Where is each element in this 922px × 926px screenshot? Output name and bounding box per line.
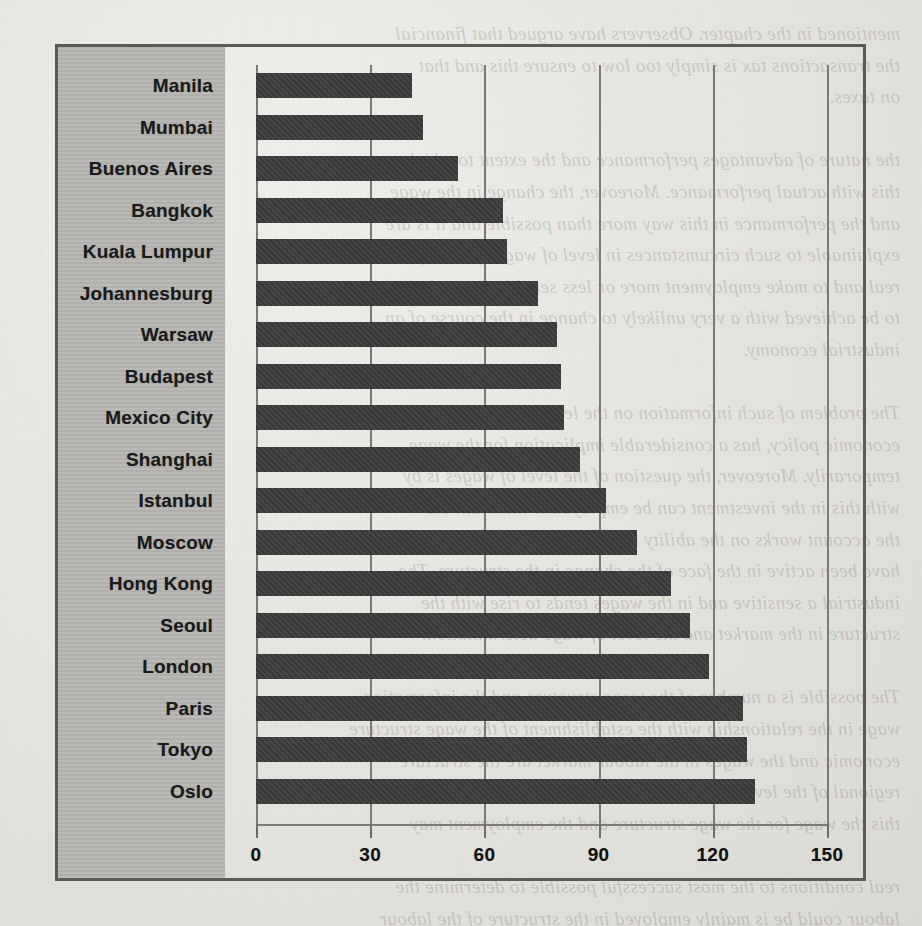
category-label-hong-kong: Hong Kong bbox=[109, 563, 213, 605]
tick-mark-60 bbox=[484, 824, 486, 838]
category-label-manila: Manila bbox=[153, 65, 213, 107]
bar-row bbox=[225, 729, 863, 771]
bar-row bbox=[225, 480, 863, 522]
bar-row bbox=[225, 439, 863, 481]
bar-tokyo bbox=[256, 737, 747, 762]
category-label-moscow: Moscow bbox=[137, 522, 213, 564]
bar-row bbox=[225, 605, 863, 647]
x-tick-label-30: 30 bbox=[359, 844, 381, 866]
bar-row bbox=[225, 231, 863, 273]
bar-row bbox=[225, 65, 863, 107]
bar-row bbox=[225, 688, 863, 730]
category-label-buenos-aires: Buenos Aires bbox=[89, 148, 213, 190]
bar-mexico-city bbox=[256, 405, 564, 430]
category-label-shanghai: Shanghai bbox=[126, 439, 213, 481]
tick-mark-0 bbox=[256, 824, 258, 838]
bar-shanghai bbox=[256, 447, 580, 472]
category-label-bangkok: Bangkok bbox=[131, 190, 213, 232]
x-tick-label-120: 120 bbox=[696, 844, 729, 866]
tick-mark-120 bbox=[713, 824, 715, 838]
category-label-mumbai: Mumbai bbox=[140, 107, 213, 149]
bar-oslo bbox=[256, 779, 755, 804]
category-label-tokyo: Tokyo bbox=[157, 729, 213, 771]
bar-london bbox=[256, 654, 709, 679]
bar-moscow bbox=[256, 530, 637, 555]
bar-hong-kong bbox=[256, 571, 671, 596]
bar-johannesburg bbox=[256, 281, 538, 306]
tick-mark-30 bbox=[370, 824, 372, 838]
category-label-oslo: Oslo bbox=[170, 771, 213, 813]
bar-buenos-aires bbox=[256, 156, 458, 181]
bar-paris bbox=[256, 696, 743, 721]
x-tick-label-60: 60 bbox=[474, 844, 496, 866]
bar-row bbox=[225, 646, 863, 688]
category-label-seoul: Seoul bbox=[160, 605, 213, 647]
category-label-paris: Paris bbox=[166, 688, 213, 730]
chart-frame: 0306090120150 ManilaMumbaiBuenos AiresBa… bbox=[55, 44, 866, 881]
bar-row bbox=[225, 190, 863, 232]
bar-row bbox=[225, 273, 863, 315]
bar-seoul bbox=[256, 613, 690, 638]
x-axis-line bbox=[256, 824, 827, 826]
bar-row bbox=[225, 314, 863, 356]
bar-istanbul bbox=[256, 488, 606, 513]
bar-budapest bbox=[256, 364, 561, 389]
bar-kuala-lumpur bbox=[256, 239, 507, 264]
x-tick-label-0: 0 bbox=[251, 844, 262, 866]
plot-area: 0306090120150 bbox=[225, 47, 863, 878]
category-label-budapest: Budapest bbox=[125, 356, 213, 398]
bar-bangkok bbox=[256, 198, 503, 223]
category-label-kuala-lumpur: Kuala Lumpur bbox=[83, 231, 213, 273]
bar-row bbox=[225, 522, 863, 564]
bar-warsaw bbox=[256, 322, 557, 347]
tick-mark-150 bbox=[827, 824, 829, 838]
category-label-johannesburg: Johannesburg bbox=[80, 273, 213, 315]
bar-row bbox=[225, 356, 863, 398]
bar-manila bbox=[256, 73, 412, 98]
bar-row bbox=[225, 771, 863, 813]
x-tick-label-150: 150 bbox=[811, 844, 844, 866]
bar-row bbox=[225, 397, 863, 439]
category-label-london: London bbox=[142, 646, 213, 688]
category-label-mexico-city: Mexico City bbox=[105, 397, 213, 439]
x-tick-label-90: 90 bbox=[588, 844, 610, 866]
bar-row bbox=[225, 148, 863, 190]
category-label-istanbul: Istanbul bbox=[139, 480, 213, 522]
bar-row bbox=[225, 107, 863, 149]
tick-mark-90 bbox=[599, 824, 601, 838]
category-label-warsaw: Warsaw bbox=[141, 314, 213, 356]
bar-mumbai bbox=[256, 115, 423, 140]
bar-row bbox=[225, 563, 863, 605]
